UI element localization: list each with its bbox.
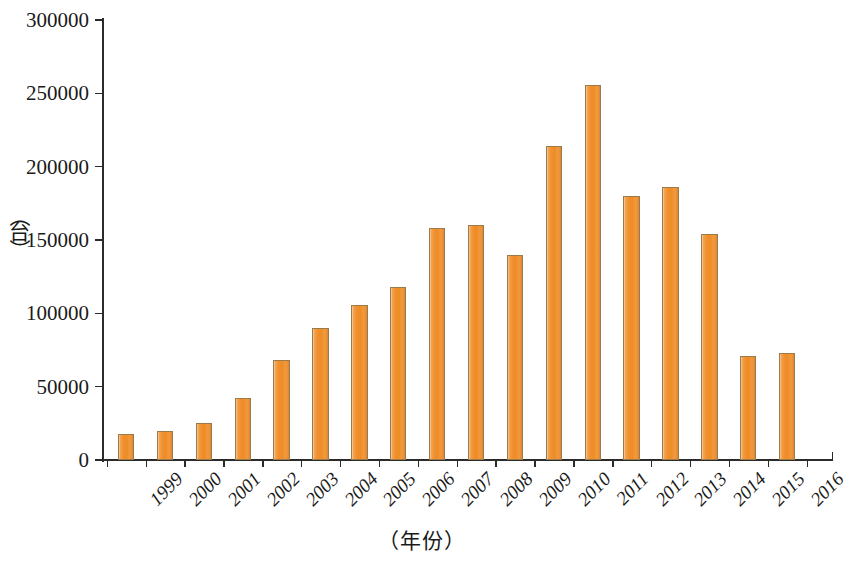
bar [779, 353, 795, 460]
y-axis-tick [95, 166, 102, 168]
y-axis-tick [95, 93, 102, 95]
x-axis-tick-label: 1999 [145, 468, 187, 510]
x-axis-tick [418, 460, 419, 467]
bar [740, 356, 756, 460]
x-axis-tick [807, 460, 808, 467]
x-axis-tick [768, 460, 769, 467]
x-axis-tick [262, 460, 263, 467]
x-axis-tick [457, 460, 458, 467]
plot-area [102, 20, 833, 460]
bar-fill [508, 256, 522, 459]
bar-fill [352, 306, 366, 459]
x-axis-tick [651, 460, 652, 467]
bar [390, 287, 406, 460]
x-axis-tick [379, 460, 380, 467]
bar [507, 255, 523, 460]
y-axis-tick-label: 150000 [0, 228, 89, 253]
bar-fill [624, 197, 638, 459]
bar-fill [119, 435, 133, 459]
bar-fill [158, 432, 172, 459]
bar [273, 360, 289, 460]
x-axis-tick-label: 2009 [534, 468, 576, 510]
bar [585, 85, 601, 460]
x-axis-tick-label: 2002 [262, 468, 304, 510]
x-axis-tick-label: 2014 [728, 468, 770, 510]
bar-fill [702, 235, 716, 459]
bar-fill [391, 288, 405, 459]
bar [351, 305, 367, 460]
bar-fill [741, 357, 755, 459]
bar-fill [236, 399, 250, 459]
x-axis-tick [340, 460, 341, 467]
bar-fill [586, 86, 600, 459]
bar-fill [780, 354, 794, 459]
x-axis-tick [184, 460, 185, 467]
x-axis-tick-label: 2004 [340, 468, 382, 510]
y-axis-tick-label: 100000 [0, 301, 89, 326]
bar-fill [197, 424, 211, 459]
bar-fill [274, 361, 288, 459]
x-axis-tick-label: 2003 [301, 468, 343, 510]
y-axis-tick-label: 0 [0, 448, 89, 473]
bar-fill [313, 329, 327, 459]
bar [468, 225, 484, 460]
x-axis-tick [729, 460, 730, 467]
bar-fill [663, 188, 677, 459]
bar [623, 196, 639, 460]
x-axis-title: （年份） [0, 524, 843, 554]
y-axis-tick-label: 300000 [0, 8, 89, 33]
x-axis-tick [301, 460, 302, 467]
bar-fill [469, 226, 483, 459]
x-axis-tick-label: 2016 [806, 468, 848, 510]
x-axis-tick [612, 460, 613, 467]
bar [429, 228, 445, 460]
x-axis-tick [690, 460, 691, 467]
bar [312, 328, 328, 460]
bar [701, 234, 717, 460]
y-axis-tick [95, 19, 102, 21]
bar [662, 187, 678, 460]
bar [118, 434, 134, 460]
x-axis-tick-label: 2001 [223, 468, 265, 510]
y-axis-tick [95, 313, 102, 315]
x-axis-tick-label: 2013 [690, 468, 732, 510]
x-axis-tick-label: 2005 [379, 468, 421, 510]
x-axis-tick-label: 2006 [417, 468, 459, 510]
x-axis-tick-label: 2007 [456, 468, 498, 510]
x-axis-tick-label: 2000 [184, 468, 226, 510]
x-axis-tick [107, 460, 108, 467]
bar [546, 146, 562, 460]
x-axis-tick [146, 460, 147, 467]
bar [196, 423, 212, 460]
x-axis-tick [534, 460, 535, 467]
y-axis-tick-label: 200000 [0, 154, 89, 179]
bar [157, 431, 173, 460]
y-axis-tick-label: 250000 [0, 81, 89, 106]
x-axis-tick-label: 2011 [611, 468, 652, 509]
y-axis-tick [95, 239, 102, 241]
y-axis-tick-label: 50000 [0, 374, 89, 399]
y-axis-title-open-paren: （ [11, 201, 27, 231]
x-axis-tick [223, 460, 224, 467]
bar [235, 398, 251, 460]
bar-fill [547, 147, 561, 459]
x-axis-tick [495, 460, 496, 467]
x-axis-tick-label: 2010 [573, 468, 615, 510]
x-axis-tick-label: 2015 [767, 468, 809, 510]
y-axis-tick [95, 386, 102, 388]
bar-fill [430, 229, 444, 459]
x-axis-tick-label: 2008 [495, 468, 537, 510]
x-axis-tick [573, 460, 574, 467]
y-axis-tick [95, 459, 102, 461]
x-axis-tick-label: 2012 [651, 468, 693, 510]
